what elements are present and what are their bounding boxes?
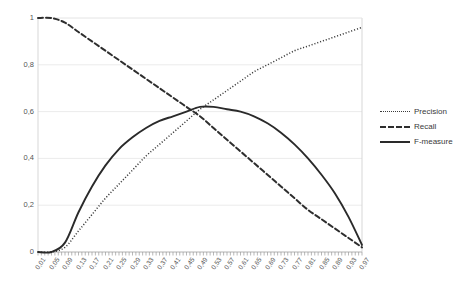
x-tick-label: 0,77 <box>290 256 303 271</box>
x-tick-label: 0,21 <box>101 256 114 271</box>
x-tick-label: 0,09 <box>61 256 74 271</box>
legend-line-precision-icon <box>380 107 410 116</box>
x-tick-label: 0,29 <box>128 256 141 271</box>
x-tick-label: 0,81 <box>304 256 317 271</box>
x-tick-label: 0,65 <box>250 256 263 271</box>
x-tick-label: 0,89 <box>331 256 344 271</box>
x-tick-label: 0,25 <box>115 256 128 271</box>
chart-legend: Precision Recall F-measure <box>380 104 468 149</box>
x-tick-label: 0,57 <box>223 256 236 271</box>
x-tick-label: 0,45 <box>182 256 195 271</box>
x-tick-label: 0,01 <box>34 256 47 271</box>
x-tick-label: 0,97 <box>358 256 371 271</box>
x-tick-label: 0,17 <box>88 256 101 271</box>
x-tick-label: 0,37 <box>155 256 168 271</box>
x-tick-label: 0,73 <box>277 256 290 271</box>
legend-label-precision: Precision <box>414 107 447 116</box>
x-tick-label: 0,69 <box>263 256 276 271</box>
x-tick-label: 0,61 <box>236 256 249 271</box>
x-tick-label: 0,13 <box>74 256 87 271</box>
legend-item-precision: Precision <box>380 104 468 119</box>
legend-item-fmeasure: F-measure <box>380 134 468 149</box>
x-tick-label: 0,85 <box>317 256 330 271</box>
x-tick-label: 0,05 <box>47 256 60 271</box>
legend-label-fmeasure: F-measure <box>414 137 453 146</box>
x-tick-label: 0,93 <box>344 256 357 271</box>
legend-item-recall: Recall <box>380 119 468 134</box>
precision-recall-fmeasure-chart: 00,20,40,60,81 0,010,050,090,130,170,210… <box>0 0 470 292</box>
legend-line-recall-icon <box>380 122 410 131</box>
x-tick-label: 0,41 <box>169 256 182 271</box>
x-tick-label: 0,53 <box>209 256 222 271</box>
legend-label-recall: Recall <box>414 122 436 131</box>
x-tick-label: 0,49 <box>196 256 209 271</box>
legend-line-fmeasure-icon <box>380 137 410 146</box>
x-tick-label: 0,33 <box>142 256 155 271</box>
